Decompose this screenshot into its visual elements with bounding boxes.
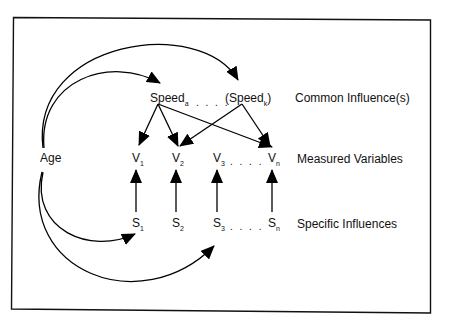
node-s3: S3 bbox=[213, 217, 225, 232]
node-v3: V3 bbox=[213, 152, 225, 167]
node-v2: V2 bbox=[172, 152, 184, 167]
label-common-influences: Common Influence(s) bbox=[295, 92, 410, 104]
node-age: Age bbox=[40, 152, 61, 164]
node-s2: S2 bbox=[172, 217, 184, 232]
node-sn: Sn bbox=[268, 217, 280, 232]
label-measured-variables: Measured Variables bbox=[297, 153, 403, 165]
label-specific-influences: Specific Influences bbox=[297, 218, 397, 230]
node-s1: S1 bbox=[132, 217, 144, 232]
node-speed-a: Speeda bbox=[150, 92, 189, 107]
ellipsis-v: . . . . bbox=[230, 157, 263, 167]
node-speed-k: (Speedk) bbox=[225, 92, 271, 107]
node-v1: V1 bbox=[132, 152, 144, 167]
node-vn: Vn bbox=[268, 152, 280, 167]
ellipsis-s: . . . . bbox=[230, 222, 263, 232]
